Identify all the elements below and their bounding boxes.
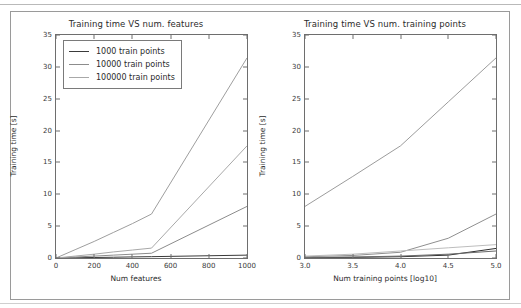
y-tick-mark — [305, 66, 309, 67]
chart-panel-left: Training time VS num. features 051015202… — [11, 12, 261, 299]
legend-label: 1000 train points — [96, 47, 165, 56]
y-tick-mark — [56, 66, 60, 67]
x-tick-mark — [170, 254, 171, 258]
x-tick-mark — [352, 254, 353, 258]
y-tick-mark — [243, 194, 247, 195]
y-tick-label: 20 — [43, 127, 52, 135]
chart-title-right: Training time VS num. training points — [260, 19, 510, 29]
x-tick-mark — [132, 254, 133, 258]
x-tick-mark — [448, 254, 449, 258]
x-axis-label-left: Num features — [11, 274, 261, 283]
y-tick-mark — [492, 98, 496, 99]
legend-line-swatch — [69, 51, 89, 52]
y-tick-label: 0 — [48, 254, 52, 262]
data-line — [305, 58, 496, 206]
x-tick-label: 800 — [202, 262, 215, 270]
legend-label: 10000 train points — [96, 60, 170, 69]
y-tick-mark — [56, 35, 60, 36]
y-tick-label: 10 — [292, 190, 301, 198]
top-divider — [0, 4, 521, 5]
x-tick-mark — [352, 35, 353, 39]
y-tick-mark — [492, 194, 496, 195]
y-axis-label-left: Training time [s] — [9, 115, 18, 176]
y-tick-mark — [243, 98, 247, 99]
chart-panel-right: Training time VS num. training points 05… — [260, 12, 510, 299]
x-tick-mark — [208, 254, 209, 258]
x-tick-label: 0 — [54, 262, 58, 270]
x-tick-label: 600 — [164, 262, 177, 270]
x-tick-label: 400 — [126, 262, 139, 270]
y-tick-label: 15 — [43, 158, 52, 166]
legend-left: 1000 train points10000 train points10000… — [63, 40, 182, 89]
y-tick-mark — [56, 130, 60, 131]
x-tick-mark — [247, 254, 248, 258]
y-tick-label: 25 — [43, 95, 52, 103]
y-tick-mark — [305, 226, 309, 227]
y-tick-mark — [243, 162, 247, 163]
y-tick-label: 5 — [297, 222, 301, 230]
legend-item: 10000 train points — [69, 58, 175, 71]
chart-title-left: Training time VS num. features — [11, 19, 261, 29]
x-tick-mark — [56, 35, 57, 39]
y-tick-mark — [56, 258, 60, 259]
x-tick-label: 5.0 — [490, 262, 501, 270]
x-tick-mark — [208, 35, 209, 39]
y-tick-label: 35 — [292, 31, 301, 39]
y-tick-label: 20 — [292, 127, 301, 135]
legend-item: 1000 train points — [69, 45, 175, 58]
plot-area-right: 051015202530353.03.54.04.55.0 — [304, 34, 497, 259]
y-tick-mark — [492, 162, 496, 163]
x-tick-mark — [496, 35, 497, 39]
y-tick-mark — [56, 226, 60, 227]
y-tick-mark — [243, 226, 247, 227]
y-tick-mark — [492, 226, 496, 227]
y-tick-mark — [492, 130, 496, 131]
y-tick-label: 35 — [43, 31, 52, 39]
y-axis-label-right: Training time [s] — [258, 115, 267, 176]
y-tick-label: 30 — [292, 63, 301, 71]
x-tick-label: 3.0 — [299, 262, 310, 270]
y-tick-mark — [305, 35, 309, 36]
y-tick-mark — [243, 130, 247, 131]
figure-page: Training time VS num. features 051015202… — [0, 0, 521, 308]
data-line — [305, 214, 496, 257]
x-tick-label: 200 — [88, 262, 101, 270]
y-tick-label: 15 — [292, 158, 301, 166]
legend-label: 100000 train points — [96, 73, 175, 82]
y-tick-mark — [56, 98, 60, 99]
y-tick-label: 0 — [297, 254, 301, 262]
legend-line-swatch — [69, 64, 89, 65]
y-tick-mark — [243, 66, 247, 67]
x-tick-mark — [400, 35, 401, 39]
bottom-divider — [0, 303, 521, 304]
x-tick-label: 4.0 — [395, 262, 406, 270]
x-tick-mark — [56, 254, 57, 258]
x-tick-mark — [496, 254, 497, 258]
data-line — [56, 146, 247, 258]
x-tick-mark — [132, 35, 133, 39]
legend-item: 100000 train points — [69, 71, 175, 84]
x-tick-mark — [94, 35, 95, 39]
legend-line-swatch — [69, 77, 89, 78]
y-tick-mark — [492, 66, 496, 67]
x-tick-label: 4.5 — [443, 262, 454, 270]
x-tick-mark — [170, 35, 171, 39]
x-axis-label-right: Num training points [log10] — [260, 274, 510, 283]
x-tick-mark — [247, 35, 248, 39]
y-tick-mark — [305, 194, 309, 195]
x-tick-mark — [400, 254, 401, 258]
y-tick-mark — [56, 162, 60, 163]
x-tick-mark — [305, 35, 306, 39]
figure-frame: Training time VS num. features 051015202… — [10, 11, 510, 300]
x-tick-mark — [94, 254, 95, 258]
y-tick-label: 25 — [292, 95, 301, 103]
y-tick-label: 10 — [43, 190, 52, 198]
x-tick-label: 3.5 — [347, 262, 358, 270]
x-tick-mark — [448, 35, 449, 39]
plot-lines-right — [305, 35, 496, 258]
x-tick-label: 1000 — [238, 262, 256, 270]
y-tick-mark — [305, 162, 309, 163]
y-tick-mark — [56, 194, 60, 195]
y-tick-label: 30 — [43, 63, 52, 71]
y-tick-mark — [305, 98, 309, 99]
